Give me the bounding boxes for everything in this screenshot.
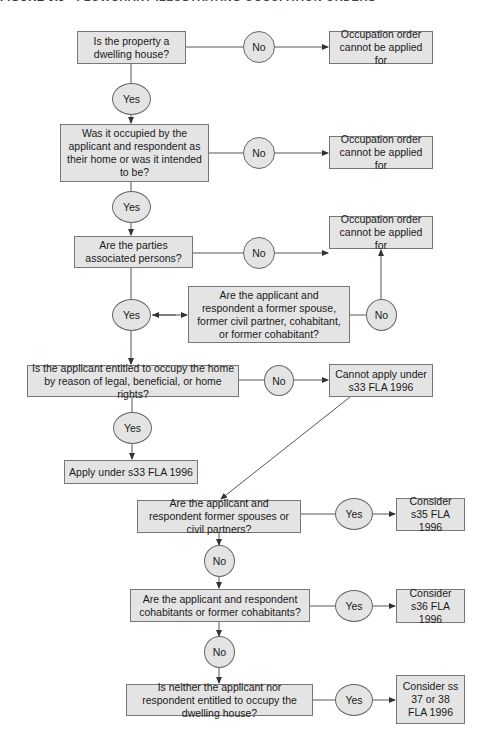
question-dwelling-house: Is the property a dwelling house? — [77, 31, 186, 64]
result-cannot-apply-s33: Cannot apply under s33 FLA 1996 — [329, 364, 433, 397]
decision-no-6: No — [204, 636, 235, 668]
question-neither-entitled: Is neither the applicant nor respondent … — [126, 684, 313, 716]
decision-no-4: No — [264, 365, 294, 396]
decision-yes-1: Yes — [112, 83, 151, 115]
result-consider-s37-s38: Consider ss 37 or 38 FLA 1996 — [396, 675, 465, 724]
decision-no-1: No — [243, 31, 275, 63]
result-apply-s33: Apply under s33 FLA 1996 — [64, 460, 198, 484]
decision-yes-3: Yes — [112, 299, 151, 331]
decision-yes-2: Yes — [112, 191, 151, 223]
decision-yes-7: Yes — [335, 684, 373, 716]
decision-no-2: No — [243, 137, 275, 169]
question-occupied-as-home: Was it occupied by the applicant and res… — [60, 124, 209, 182]
decision-yes-5: Yes — [335, 498, 373, 530]
decision-no-3b: No — [366, 299, 397, 331]
question-entitled-to-occupy: Is the applicant entitled to occupy the … — [27, 365, 239, 397]
decision-no-5: No — [204, 545, 235, 577]
decision-yes-6: Yes — [335, 590, 373, 622]
result-cannot-apply-1: Occupation order cannot be applied for — [329, 31, 433, 64]
result-consider-s35: Consider s35 FLA 1996 — [396, 498, 465, 531]
question-associated-persons: Are the parties associated persons? — [74, 236, 193, 268]
result-cannot-apply-3: Occupation order cannot be applied for — [329, 216, 433, 249]
question-former-spouse-cohabitant: Are the applicant and respondent a forme… — [188, 286, 350, 343]
decision-no-3: No — [243, 237, 275, 269]
result-consider-s36: Consider s36 FLA 1996 — [396, 589, 465, 623]
question-cohabitants: Are the applicant and respondent cohabit… — [130, 589, 310, 622]
decision-yes-4: Yes — [113, 412, 152, 444]
result-cannot-apply-2: Occupation order cannot be applied for — [329, 136, 433, 169]
question-former-spouses-civil-partners: Are the applicant and respondent former … — [137, 500, 301, 533]
